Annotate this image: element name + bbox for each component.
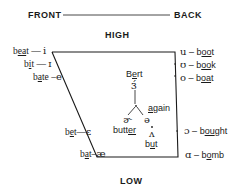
- back-vowel-bomb: ɑ – bomb: [185, 150, 224, 160]
- front-vowel-bet: bet—ɛ: [65, 127, 91, 138]
- front-label: FRONT: [28, 11, 62, 20]
- back-vowel-book: ʊ – book: [180, 60, 216, 70]
- central-symbol-bert: ɜ́: [131, 80, 137, 91]
- central-word-again: again: [148, 104, 170, 113]
- high-label: HIGH: [105, 31, 130, 40]
- again-branch: [137, 107, 143, 115]
- low-label: LOW: [120, 177, 143, 186]
- front-vowel-beat: beat — i: [13, 46, 46, 57]
- front-vowel-bate: bate –e: [33, 72, 62, 83]
- central-word-butter: butter: [113, 126, 136, 135]
- central-symbol-but: ʌ: [149, 129, 155, 139]
- central-symbol-butter: ɚ: [123, 115, 131, 125]
- central-dot: [135, 105, 137, 107]
- back-label: BACK: [174, 11, 202, 20]
- central-symbol-again: ə: [144, 115, 150, 125]
- central-word-bert: Bert: [126, 70, 143, 79]
- front-vowel-bat: bat–æ: [80, 149, 106, 160]
- back-vowel-bought: ɔ – bought: [184, 126, 227, 136]
- central-word-but: but: [145, 140, 158, 149]
- front-vowel-bit: bit — ɪ: [24, 59, 51, 70]
- back-vowel-boot: u – boot: [180, 47, 214, 57]
- back-vowel-boat: o – boat: [180, 73, 214, 83]
